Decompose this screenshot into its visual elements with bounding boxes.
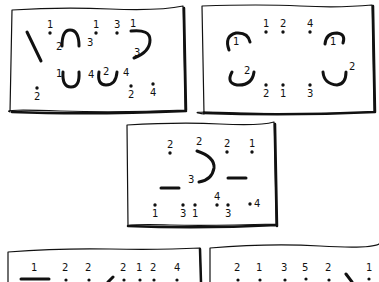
stroke-label: 2 xyxy=(103,66,109,77)
dot-label: 1 xyxy=(192,208,198,219)
stroke-line xyxy=(27,32,41,61)
grid-dot xyxy=(115,31,118,34)
dot-label: 3 xyxy=(180,208,186,219)
grid-dot xyxy=(129,84,132,87)
dot-label: 3 xyxy=(114,19,120,30)
dot-label: 4 xyxy=(214,191,220,202)
dot-label: 1 xyxy=(93,19,99,30)
grid-dot xyxy=(151,82,154,85)
grid-dot xyxy=(308,83,311,86)
stroke-label: 2 xyxy=(349,61,355,72)
stroke-label: 3 xyxy=(87,37,93,48)
grid-dot xyxy=(94,31,97,34)
grid-dot xyxy=(153,203,156,206)
dot-label: 2 xyxy=(34,91,40,102)
grid-dot xyxy=(48,31,51,34)
grid-dot xyxy=(264,83,267,86)
svg-text:2: 2 xyxy=(150,262,156,273)
grid-dot xyxy=(281,83,284,86)
dot-label: 1 xyxy=(280,88,286,99)
dot-label: 1 xyxy=(263,18,269,29)
stroke-label: 1 xyxy=(330,36,336,47)
stroke-hook xyxy=(197,151,214,182)
dot-label: 4 xyxy=(307,18,313,29)
stroke-line xyxy=(346,274,352,282)
stroke-label: 1 xyxy=(56,68,62,79)
dot-label: 2 xyxy=(167,139,173,150)
dot-label: 4 xyxy=(254,198,260,209)
panel-4-content: 1 2 2 2 1 2 4 xyxy=(31,262,180,282)
stroke-label: 4 xyxy=(88,69,94,80)
stroke-label: 2 xyxy=(244,65,250,76)
stroke-label: 2 xyxy=(56,41,62,52)
dot-label: 2 xyxy=(128,89,134,100)
grid-dot xyxy=(168,151,171,154)
grid-dot xyxy=(250,150,253,153)
grid-dot xyxy=(181,203,184,206)
stroke-line xyxy=(108,277,113,282)
svg-text:2: 2 xyxy=(85,262,91,273)
grid-dot xyxy=(35,86,38,89)
dot-label: 3 xyxy=(225,208,231,219)
svg-text:2: 2 xyxy=(62,262,68,273)
dot-label: 2 xyxy=(263,88,269,99)
dot-label: 2 xyxy=(280,18,286,29)
svg-text:1: 1 xyxy=(31,262,37,273)
dot-label: 2 xyxy=(224,138,230,149)
svg-text:2: 2 xyxy=(234,262,240,273)
grid-dot xyxy=(226,203,229,206)
stroke-arch xyxy=(62,30,79,46)
svg-text:2: 2 xyxy=(120,262,126,273)
dot-label: 1 xyxy=(152,208,158,219)
grid-dot xyxy=(193,203,196,206)
grid-dot xyxy=(225,150,228,153)
svg-text:1: 1 xyxy=(256,262,262,273)
grid-dot xyxy=(308,30,311,33)
stroke-arc xyxy=(323,72,346,85)
stroke-label: 3 xyxy=(188,174,194,185)
svg-text:3: 3 xyxy=(281,262,287,273)
svg-text:2: 2 xyxy=(325,262,331,273)
svg-text:1: 1 xyxy=(366,262,372,273)
grid-dot xyxy=(264,30,267,33)
stroke-label: 4 xyxy=(123,67,129,78)
grid-dot xyxy=(248,202,251,205)
svg-text:4: 4 xyxy=(174,262,180,273)
stroke-cup xyxy=(63,72,79,87)
panel-5-content: 2 1 3 5 2 1 xyxy=(234,262,372,282)
dot-label: 4 xyxy=(150,87,156,98)
dot-label: 3 xyxy=(307,88,313,99)
dot-label: 1 xyxy=(249,138,255,149)
svg-text:1: 1 xyxy=(136,262,142,273)
stroke-label: 1 xyxy=(130,18,136,29)
puzzle-figure: 11322423131424124213112222113143423 1 2 … xyxy=(0,0,379,282)
stroke-arc xyxy=(230,72,254,85)
stroke-label: 1 xyxy=(233,36,239,47)
stroke-label: 2 xyxy=(196,136,202,147)
grid-dot xyxy=(281,30,284,33)
grid-dot xyxy=(215,203,218,206)
svg-text:5: 5 xyxy=(302,262,308,273)
dot-label: 1 xyxy=(47,19,53,30)
stroke-label: 3 xyxy=(134,47,140,58)
